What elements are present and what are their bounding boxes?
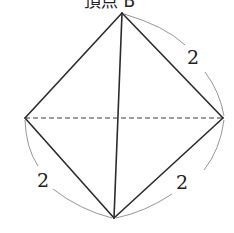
edge-label-top-right: 2 [187, 46, 199, 68]
edge-label-bottom-left: 2 [37, 169, 49, 191]
edge-left-bottom [25, 118, 114, 218]
edge-top-right [122, 13, 223, 118]
edge-right-bottom [114, 118, 223, 218]
top-caption: 頂点 B [84, 0, 135, 11]
dimension-arc-bottom-right-lower [116, 194, 172, 218]
edge-top-bottom [114, 13, 122, 218]
dimension-arc-bottom-left-upper [25, 120, 38, 166]
edge-top-left [25, 13, 122, 118]
geometry-figure: 頂点 B 2 2 2 [0, 0, 234, 233]
dimension-arc-top-right-upper [124, 14, 185, 45]
dimension-arc-bottom-left-lower [53, 189, 112, 218]
edge-label-bottom-right: 2 [176, 171, 188, 193]
dimension-arc-bottom-right-upper [204, 120, 224, 170]
